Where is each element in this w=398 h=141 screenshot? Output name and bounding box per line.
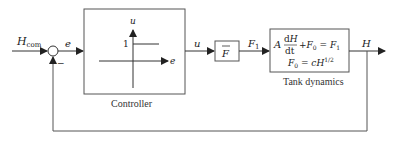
block-diagram: Hcom − e u e 1 Controller u F F1 A dH dt…	[0, 0, 398, 141]
output-label: H	[361, 38, 371, 49]
error-label: e	[65, 38, 71, 49]
flow-in-label: F1	[247, 38, 259, 51]
eq1-A: A	[273, 39, 281, 50]
gain-block: F	[215, 41, 239, 61]
eq1-rest: +F0 = F1	[299, 40, 340, 51]
input-signal: Hcom	[12, 35, 47, 51]
minus-sign: −	[57, 58, 65, 68]
controller-block: u e 1	[84, 9, 185, 94]
tank-block: A dH dt +F0 = F1 F0 = cH1/2	[270, 29, 349, 72]
summing-junction: −	[48, 46, 65, 68]
controller-caption: Controller	[111, 98, 153, 109]
eq1-den: dt	[285, 46, 295, 56]
gain-label: F	[221, 48, 230, 59]
u-axis-label: u	[130, 16, 136, 26]
e-axis-label: e	[170, 56, 175, 66]
input-label: Hcom	[16, 35, 42, 49]
level-label: 1	[123, 39, 129, 49]
tank-caption: Tank dynamics	[283, 76, 344, 87]
control-label: u	[194, 38, 200, 49]
eq1-num: dH	[284, 34, 298, 44]
